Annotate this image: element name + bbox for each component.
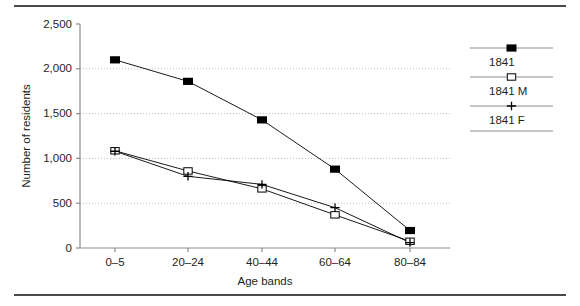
x-tick-label: 40–44	[230, 256, 294, 268]
data-point-1841	[405, 227, 415, 234]
data-point-1841	[257, 116, 267, 123]
data-point-1841	[183, 78, 193, 85]
series-markers-group	[110, 56, 415, 247]
y-axis-title: Number of residents	[20, 66, 32, 206]
y-tick-label: 1,000	[20, 152, 72, 164]
y-tick-label: 0	[20, 242, 72, 254]
series-line-1841	[115, 60, 410, 231]
legend-item-label: 1841	[489, 56, 515, 68]
legend-item-label: 1841 F	[489, 114, 525, 126]
x-tick-label: 60–64	[303, 256, 367, 268]
y-tick-label: 500	[20, 197, 72, 209]
legend-marker-open-square	[507, 74, 515, 80]
series-line-1841-m	[115, 151, 410, 241]
data-point-1841-f	[330, 203, 339, 211]
chart-figure: Number of residents Age bands 2,500 2,00…	[0, 0, 580, 306]
data-point-1841	[330, 166, 340, 173]
legend-marker-filled-square	[507, 44, 517, 51]
x-tick-label: 80–84	[378, 256, 442, 268]
legend-marker-plus	[507, 102, 516, 110]
x-tick-label: 0–5	[83, 256, 147, 268]
x-axis-title: Age bands	[180, 275, 350, 287]
y-tick-label: 1,500	[20, 107, 72, 119]
y-tick-label: 2,500	[20, 18, 72, 30]
data-point-1841	[110, 56, 120, 63]
x-tick-label: 20–24	[156, 256, 220, 268]
series-lines-group	[115, 60, 410, 243]
legend-item-label: 1841 M	[489, 85, 527, 97]
series-line-1841-f	[115, 151, 410, 242]
data-point-1841-m	[331, 212, 339, 218]
y-tick-label: 2,000	[20, 62, 72, 74]
gridlines-group	[80, 69, 450, 203]
